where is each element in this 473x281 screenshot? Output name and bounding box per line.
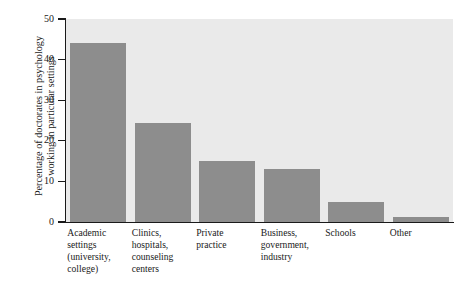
bar [264, 169, 320, 222]
x-axis-label-line: counseling [132, 251, 202, 263]
y-tick-mark [58, 18, 66, 19]
x-axis-label-line: hospitals, [132, 239, 202, 251]
x-axis-label-line: settings [67, 239, 137, 251]
y-tick-mark [58, 100, 66, 101]
y-tick-label: 40 [22, 54, 54, 64]
x-axis-label: Academicsettings(university,college) [67, 227, 137, 275]
bar [70, 43, 126, 222]
x-axis-label: Business,government,industry [261, 227, 331, 263]
x-axis-label: Privatepractice [196, 227, 266, 251]
x-axis-label-line: Business, [261, 227, 331, 239]
x-axis-line [65, 222, 454, 223]
x-axis-label-line: Other [390, 227, 460, 239]
bar [393, 217, 449, 222]
x-axis-label-line: practice [196, 239, 266, 251]
y-tick-mark [58, 221, 66, 222]
y-tick-label: 10 [22, 176, 54, 186]
x-axis-label-line: centers [132, 263, 202, 275]
x-axis-label-line: government, [261, 239, 331, 251]
bar [328, 202, 384, 222]
x-axis-label-line: industry [261, 251, 331, 263]
x-axis-label-line: Academic [67, 227, 137, 239]
x-axis-label: Other [390, 227, 460, 239]
y-tick-label: 50 [22, 14, 54, 24]
bar-chart: Percentage of doctorates in psychology w… [0, 0, 473, 281]
x-axis-label: Schools [325, 227, 395, 239]
y-tick-label-text: 10 [26, 176, 54, 186]
x-axis-label-line: Private [196, 227, 266, 239]
y-tick-label-text: 50 [26, 14, 54, 24]
y-tick-label-text: 30 [26, 95, 54, 105]
y-tick-label-text: 20 [26, 135, 54, 145]
bar [199, 161, 255, 222]
x-axis-label-line: Schools [325, 227, 395, 239]
y-tick-label-text: 0 [26, 217, 54, 227]
y-axis-line [65, 18, 66, 223]
x-axis-label: Clinics,hospitals,counselingcenters [132, 227, 202, 275]
bar [135, 123, 191, 222]
y-tick-mark [58, 181, 66, 182]
y-tick-label-text: 40 [26, 54, 54, 64]
y-axis-title: Percentage of doctorates in psychology w… [29, 11, 61, 221]
y-tick-mark [58, 59, 66, 60]
y-tick-label: 0 [22, 217, 54, 227]
y-axis-title-line-2: working in particular settings [45, 56, 57, 176]
y-tick-label: 30 [22, 95, 54, 105]
y-tick-mark [58, 140, 66, 141]
x-axis-label-line: college) [67, 263, 137, 275]
x-axis-label-line: Clinics, [132, 227, 202, 239]
y-tick-label: 20 [22, 135, 54, 145]
x-axis-label-line: (university, [67, 251, 137, 263]
